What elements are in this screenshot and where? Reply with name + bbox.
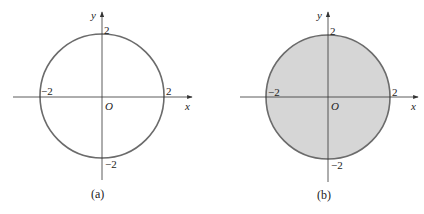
tick-left: −2 xyxy=(268,86,280,98)
caption-a: (a) xyxy=(91,187,104,201)
figure-a: y x O 2 −2 −2 2 (a) xyxy=(13,9,192,201)
origin-label: O xyxy=(105,100,113,112)
tick-bottom: −2 xyxy=(331,159,343,171)
x-axis-label: x xyxy=(184,100,190,112)
tick-bottom: −2 xyxy=(105,158,117,170)
caption-b: (b) xyxy=(317,188,331,202)
figure-canvas: y x O 2 −2 −2 2 (a) y x O 2 −2 −2 2 (b) xyxy=(0,0,424,214)
tick-top: 2 xyxy=(330,25,336,37)
tick-right: 2 xyxy=(166,85,172,97)
figure-b: y x O 2 −2 −2 2 (b) xyxy=(240,9,418,202)
tick-left: −2 xyxy=(41,85,53,97)
tick-top: 2 xyxy=(104,24,110,36)
tick-right: 2 xyxy=(392,86,398,98)
y-axis-label: y xyxy=(90,9,96,21)
x-axis-label: x xyxy=(410,100,416,112)
origin-label: O xyxy=(331,100,339,112)
y-axis-label: y xyxy=(316,9,322,21)
